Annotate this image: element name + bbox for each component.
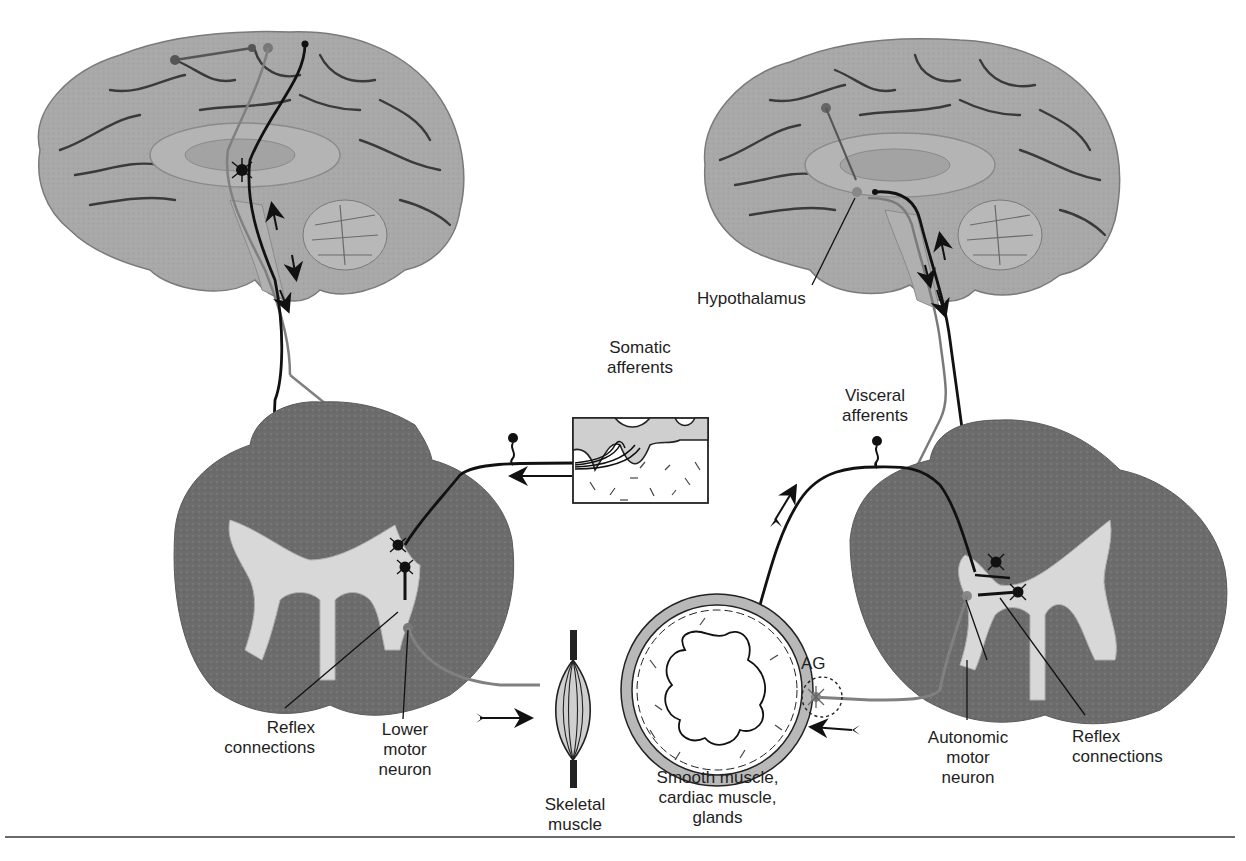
bottom-rule: [5, 836, 1235, 838]
visceral-target-label: Smooth muscle, cardiac muscle, glands: [645, 768, 790, 828]
reflex-connections-label-left: Reflex connections: [200, 718, 315, 758]
neural-pathways-figure: Somatic afferents Reflex connections Low…: [0, 0, 1246, 861]
lower-motor-neuron-label: Lower motor neuron: [355, 720, 455, 780]
somatic-afferents-label: Somatic afferents: [570, 338, 710, 378]
visceral-afferents-label: Visceral afferents: [810, 386, 940, 426]
autonomic-motor-neuron-label: Autonomic motor neuron: [898, 728, 1038, 788]
skeletal-muscle-label: Skeletal muscle: [525, 795, 625, 835]
cerebellum: [303, 200, 387, 270]
ag-label: AG: [801, 654, 841, 674]
spinal-cord-left-icon: [174, 402, 540, 715]
spinal-cord-right-icon: [812, 420, 1227, 724]
somatic-panel: [38, 32, 708, 788]
brain-left-icon: [38, 32, 463, 301]
brain-right-icon: [705, 39, 1120, 310]
visceral-organ-icon: [621, 594, 813, 786]
skeletal-muscle-icon: [476, 630, 590, 788]
hypothalamus-label: Hypothalamus: [697, 289, 847, 309]
skin-tissue-icon: [573, 418, 708, 503]
reflex-connections-label-right: Reflex connections: [1072, 727, 1202, 767]
diagram-canvas: [0, 0, 1246, 861]
cerebellum: [958, 200, 1042, 270]
